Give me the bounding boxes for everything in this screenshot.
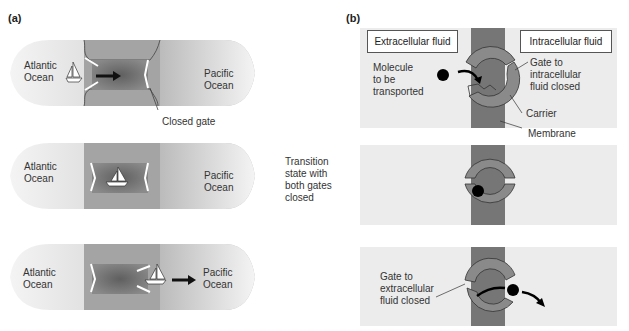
intracellular-fluid-box: Intracellular fluid [520,30,612,53]
gate-extracellular-label: Gate to extracellular fluid closed [380,271,434,307]
gate-intracellular-label: Gate to intracellular fluid closed [530,57,581,93]
membrane-label: Membrane [528,128,576,140]
carrier-label: Carrier [526,108,557,120]
extracellular-fluid-box: Extracellular fluid [367,30,458,53]
molecule-label: Molecule to be transported [373,62,424,98]
